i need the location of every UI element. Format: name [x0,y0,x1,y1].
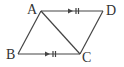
parallelogram-diagram: A D B C [0,0,124,67]
segment-ab [18,11,41,54]
vertex-label-b: B [6,47,15,62]
vertex-label-a: A [27,2,38,17]
parallel-arrow-icon [68,9,73,14]
vertex-label-d: D [106,3,116,18]
vertex-label-c: C [82,50,91,65]
parallel-arrow-icon [45,52,50,57]
segment-dc [80,11,103,54]
diagonal-ac [41,11,80,54]
